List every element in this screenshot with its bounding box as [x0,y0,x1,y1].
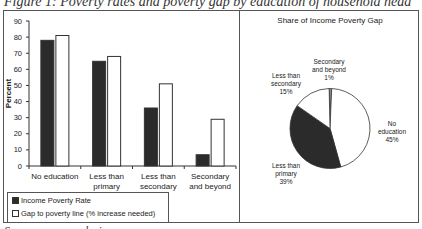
pie-label-less-than-secondary: secondary [271,80,302,88]
pie-label-secondary-and-beyond: Secondary [313,58,345,66]
pie-label-no-education: 45% [385,136,398,143]
bar-poverty-rate [196,155,209,166]
y-tick-label: 80 [14,33,22,42]
y-tick-label: 70 [14,49,22,58]
y-tick-label: 90 [14,17,22,26]
y-tick-label: 60 [14,65,22,74]
pie-label-secondary-and-beyond: 1% [324,74,334,81]
pie-label-less-than-primary: Less than [272,162,301,169]
legend-item-poverty-rate: Income Poverty Rate [12,196,91,205]
pie-label-less-than-secondary: Less than [272,72,301,79]
legend-swatch-dark [12,197,19,204]
x-category-label-line2: and beyond [189,182,231,191]
pie-title: Share of Income Poverty Gap [277,16,383,25]
x-category-label: Less than [141,172,176,181]
legend-label-poverty-gap: Gap to poverty line (% increase needed) [21,209,155,218]
pie-label-secondary-and-beyond: and beyond [312,66,346,74]
x-category-label: Less than [89,172,124,181]
x-category-label: No education [31,172,78,181]
y-tick-label: 50 [14,81,22,90]
legend-label-poverty-rate: Income Poverty Rate [21,196,91,205]
pie-label-no-education: No [388,120,397,127]
bar-poverty-rate [144,108,157,166]
x-category-label-line2: primary [93,182,120,191]
bar-poverty-gap [56,36,69,167]
pie-label-less-than-primary: 39% [279,178,292,185]
y-tick-label: 0 [18,162,22,171]
pie-label-less-than-primary: primary [275,170,297,178]
bar-poverty-gap [108,56,121,166]
x-category-label-line2: secondary [140,182,177,191]
legend-swatch-light [12,210,19,217]
legend-item-poverty-gap: Gap to poverty line (% increase needed) [12,209,155,218]
bar-poverty-rate [41,40,54,166]
y-tick-label: 30 [14,113,22,122]
y-axis-label: Percent [4,78,13,108]
bar-poverty-rate [93,61,106,166]
bar-poverty-gap [159,84,172,166]
y-tick-label: 10 [14,145,22,154]
figure-source: Source: own analysis [4,224,106,229]
pie-label-no-education: education [378,128,407,135]
y-tick-label: 20 [14,129,22,138]
y-tick-label: 40 [14,97,22,106]
bar-poverty-gap [211,119,224,166]
pie-label-less-than-secondary: 15% [279,88,292,95]
bar-legend: Income Poverty Rate Gap to poverty line … [7,192,169,223]
x-category-label: Secondary [191,172,229,181]
